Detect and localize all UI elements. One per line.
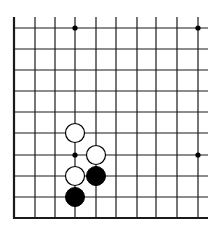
black-stone-icon	[66, 188, 85, 207]
white-stone-icon	[66, 124, 85, 143]
white-stone-icon	[66, 167, 85, 186]
black-stone-icon	[87, 167, 106, 186]
stones	[66, 124, 106, 207]
board-grid	[13, 17, 208, 219]
go-board	[0, 0, 222, 239]
star-point-icon	[195, 25, 200, 30]
star-point-icon	[72, 152, 77, 157]
star-point-icon	[195, 152, 200, 157]
star-point-icon	[72, 25, 77, 30]
white-stone-icon	[87, 146, 106, 165]
